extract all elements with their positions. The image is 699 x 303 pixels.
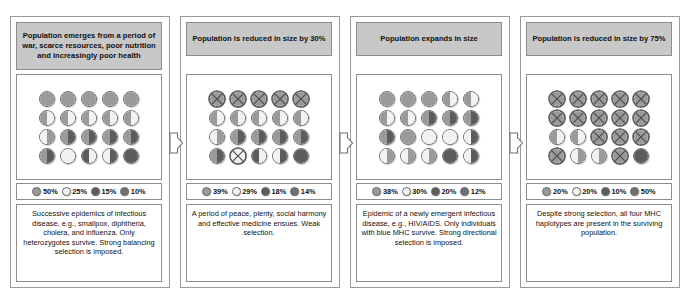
haplotype-circle: [293, 91, 309, 107]
allele-left-half: [61, 92, 68, 106]
panel-caption-text: Despite strong selection, all four MHC h…: [530, 209, 668, 238]
haplotype-circle: [209, 148, 225, 164]
allele-right-half: [557, 130, 564, 144]
population-grid: [186, 74, 332, 180]
panel-caption-text: Successive epidemics of infectious disea…: [20, 209, 158, 257]
allele-right-half: [131, 149, 138, 163]
allele-right-half: [47, 130, 54, 144]
panel-caption: A period of peace, plenty, social harmon…: [186, 204, 332, 282]
circle-body: [102, 91, 118, 107]
legend-swatch-icon: [261, 187, 270, 196]
legend-label: 20%: [442, 187, 457, 196]
cross-out-icon: [208, 90, 226, 108]
haplotype-circle: [39, 91, 55, 107]
circle-body: [209, 110, 225, 126]
haplotype-circle: [102, 91, 118, 107]
legend-label: 15%: [102, 187, 117, 196]
haplotype-circle: [123, 129, 139, 145]
legend-swatch-icon: [372, 187, 381, 196]
allele-left-half: [571, 149, 578, 163]
cross-out-icon: [590, 128, 608, 146]
haplotype-circle: [442, 91, 458, 107]
haplotype-circle: [230, 129, 246, 145]
legend-swatch-icon: [402, 187, 411, 196]
allele-left-half: [61, 149, 68, 163]
legend-swatch-icon: [91, 187, 100, 196]
legend-item: 50%: [630, 187, 655, 196]
allele-left-half: [124, 92, 131, 106]
allele-right-half: [110, 149, 117, 163]
circle-body: [421, 148, 437, 164]
legend-label: 50%: [43, 187, 58, 196]
grid-row: [209, 129, 309, 145]
circle-body: [463, 148, 479, 164]
legend-label: 10%: [131, 187, 146, 196]
haplotype-circle: [209, 129, 225, 145]
circle-body: [421, 129, 437, 145]
cross-out-icon: [271, 90, 289, 108]
population-grid: [356, 74, 502, 180]
allele-left-half: [103, 130, 110, 144]
circle-body: [442, 110, 458, 126]
legend-label: 39%: [213, 187, 228, 196]
allele-right-half: [429, 149, 436, 163]
haplotype-circle: [570, 129, 586, 145]
haplotype-circle: [293, 148, 309, 164]
grid-row: [379, 129, 479, 145]
panel-caption-text: A period of peace, plenty, social harmon…: [190, 209, 328, 238]
legend-item: 20%: [542, 187, 567, 196]
legend-label: 12%: [471, 187, 486, 196]
cross-out-icon: [632, 90, 650, 108]
haplotype-circle: [39, 129, 55, 145]
legend-item: 18%: [261, 187, 286, 196]
cross-out-icon: [229, 147, 247, 165]
haplotype-circle: [612, 129, 628, 145]
cross-out-icon: [548, 147, 566, 165]
haplotype-circle: [633, 129, 649, 145]
allele-left-half: [464, 149, 471, 163]
allele-right-half: [408, 92, 415, 106]
allele-right-half: [68, 149, 75, 163]
haplotype-circle: [230, 148, 246, 164]
legend-label: 20%: [553, 187, 568, 196]
circle-body: [463, 91, 479, 107]
haplotype-circle: [421, 91, 437, 107]
allele-right-half: [387, 130, 394, 144]
grid-row: [549, 148, 649, 164]
allele-right-half: [89, 149, 96, 163]
circle-body: [570, 129, 586, 145]
circle-body: [272, 110, 288, 126]
circle-body: [39, 148, 55, 164]
legend-item: 12%: [460, 187, 485, 196]
circle-body: [230, 110, 246, 126]
allele-left-half: [252, 130, 259, 144]
allele-left-half: [40, 111, 47, 125]
allele-right-half: [450, 149, 457, 163]
circle-body: [400, 91, 416, 107]
allele-right-half: [387, 149, 394, 163]
allele-left-half: [124, 149, 131, 163]
allele-left-half: [550, 130, 557, 144]
circle-body: [442, 148, 458, 164]
haplotype-circle: [400, 91, 416, 107]
frequency-legend: 50%25%15%10%: [16, 183, 162, 200]
frequency-legend: 20%20%10%50%: [526, 183, 672, 200]
allele-left-half: [422, 130, 429, 144]
allele-right-half: [217, 149, 224, 163]
grid-row: [39, 129, 139, 145]
circle-body: [123, 110, 139, 126]
allele-right-half: [450, 130, 457, 144]
circle-body: [400, 129, 416, 145]
legend-swatch-icon: [630, 187, 639, 196]
allele-left-half: [443, 92, 450, 106]
cross-out-icon: [590, 90, 608, 108]
haplotype-circle: [421, 110, 437, 126]
allele-left-half: [40, 130, 47, 144]
legend-label: 50%: [641, 187, 656, 196]
haplotype-circle: [549, 91, 565, 107]
allele-left-half: [82, 149, 89, 163]
allele-right-half: [408, 149, 415, 163]
allele-left-half: [61, 111, 68, 125]
legend-swatch-icon: [32, 187, 41, 196]
allele-right-half: [259, 149, 266, 163]
